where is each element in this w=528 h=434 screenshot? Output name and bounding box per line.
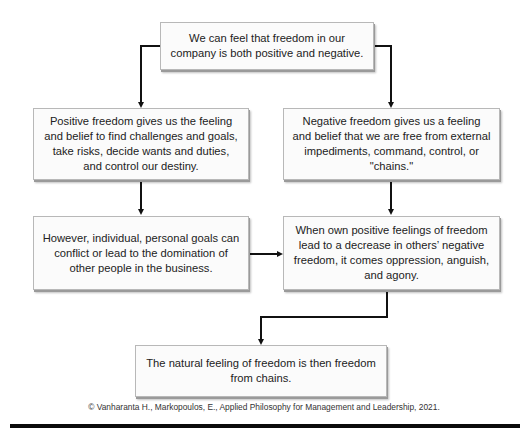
connector-oppression-to-natural <box>260 316 388 318</box>
node-top-text: We can feel that freedom in our company … <box>169 31 365 61</box>
connector-positive-to-conflict <box>140 181 142 209</box>
node-oppression: When own positive feelings of freedom le… <box>283 216 500 290</box>
node-positive-freedom: Positive freedom gives us the feeling an… <box>33 108 249 180</box>
node-conflict: However, individual, personal goals can … <box>33 216 249 290</box>
node-natural-freedom-text: The natural feeling of freedom is then f… <box>144 356 378 386</box>
node-positive-freedom-text: Positive freedom gives us the feeling an… <box>42 114 240 174</box>
node-negative-freedom: Negative freedom gives us a feeling and … <box>283 108 500 180</box>
node-oppression-text: When own positive feelings of freedom le… <box>292 223 491 283</box>
connector-conflict-to-oppression <box>249 253 278 255</box>
arrow-down-icon <box>138 209 144 215</box>
node-negative-freedom-text: Negative freedom gives us a feeling and … <box>292 114 491 174</box>
connector-top-to-positive <box>140 45 142 102</box>
connector-top-to-negative <box>373 45 391 47</box>
connector-top-to-positive <box>140 45 161 47</box>
connector-oppression-to-natural <box>260 316 262 339</box>
connector-oppression-to-natural <box>386 291 388 317</box>
citation-footer: © Vanharanta H., Markopoulos, E., Applie… <box>0 402 528 412</box>
node-conflict-text: However, individual, personal goals can … <box>42 231 240 276</box>
node-natural-freedom: The natural feeling of freedom is then f… <box>135 345 387 397</box>
node-top: We can feel that freedom in our company … <box>160 22 374 70</box>
arrow-down-icon <box>388 209 394 215</box>
connector-negative-to-oppression <box>390 181 392 209</box>
connector-top-to-negative <box>390 45 392 102</box>
bottom-rule <box>10 424 520 428</box>
